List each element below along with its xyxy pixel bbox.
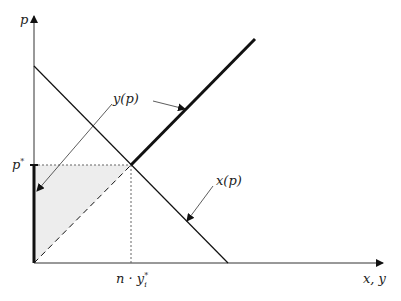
y-axis-label: p — [20, 12, 29, 27]
supply-label: y(p) — [112, 91, 139, 106]
y-label-arrow — [153, 101, 185, 109]
diagram-canvas: p x, y p* n · y*i y(p) x(p) — [0, 0, 401, 301]
quantity-star-label: n · y*i — [116, 271, 148, 289]
x-label-arrow — [187, 186, 213, 221]
p-star-label: p* — [12, 157, 24, 172]
supply-line — [131, 39, 255, 165]
demand-label: x(p) — [216, 173, 242, 188]
x-axis-label: x, y — [363, 271, 387, 286]
